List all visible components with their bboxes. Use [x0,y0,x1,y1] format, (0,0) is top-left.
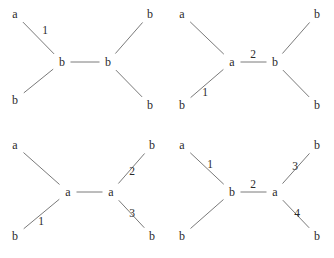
tree-node-label: b [314,99,320,111]
tree-node-label: a [229,56,234,68]
tree-node-label: a [179,139,184,151]
tree-edge-label: 1 [38,216,44,228]
tree-node-label: a [179,8,184,20]
tree-edge-label: 2 [250,49,256,61]
tree-edge [283,70,309,97]
tree-edge-label: 3 [292,161,298,173]
tree-node-label: a [65,186,70,198]
tree-node-label: b [272,56,278,68]
tree-node-label: b [314,230,320,242]
tree-node-label: b [314,139,320,151]
tree-node-label: b [179,99,185,111]
tree-edge [23,22,54,54]
tree-panel-2: ababbb12 [167,0,334,129]
tree-edge-label: 2 [250,179,256,191]
tree-edge [190,22,224,54]
tree-edges-4 [167,129,334,258]
tree-edge [116,70,142,97]
tree-node-label: a [272,186,277,198]
tree-edge [282,22,309,53]
tree-edges-1 [0,0,167,129]
tree-edge-label: 1 [207,159,213,171]
tree-node-label: a [108,186,113,198]
tree-edge [23,153,59,185]
tree-node-label: b [59,56,65,68]
tree-node-label: b [149,139,155,151]
tree-edge [24,69,53,93]
tree-node-label: b [12,230,18,242]
tree-node-label: a [12,139,17,151]
tree-edge-label: 2 [129,166,135,178]
tree-node-label: b [229,186,235,198]
tree-node-label: b [179,230,185,242]
tree-diagram-figure: abbbbb1ababbb12abaabb123abbabb1234 [0,0,334,258]
tree-edge [191,199,224,228]
tree-panel-1: abbbbb1 [0,0,167,129]
tree-edges-3 [0,129,167,258]
tree-edge-label: 1 [42,25,48,37]
tree-edge-label: 3 [129,208,135,220]
tree-panel-3: abaabb123 [0,129,167,258]
tree-edge-label: 4 [294,208,300,220]
tree-node-label: b [147,99,153,111]
tree-node-label: b [149,230,155,242]
tree-node-label: b [105,56,111,68]
tree-edge-label: 1 [202,87,208,99]
tree-edge [115,22,142,53]
tree-node-label: a [12,8,17,20]
tree-panel-4: abbabb1234 [167,129,334,258]
tree-node-label: b [12,94,18,106]
tree-node-label: b [147,8,153,20]
tree-edges-2 [167,0,334,129]
tree-node-label: b [314,8,320,20]
